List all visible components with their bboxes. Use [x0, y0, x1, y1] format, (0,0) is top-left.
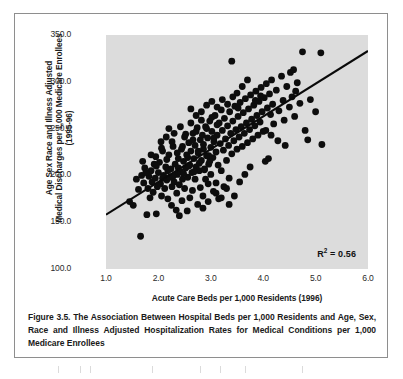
y-tick-label: 250.0 — [25, 123, 71, 133]
scan-artifact — [220, 366, 221, 373]
scatter-point — [220, 147, 227, 154]
scatter-point — [142, 169, 149, 176]
scatter-point — [179, 197, 186, 204]
scatter-point — [291, 113, 298, 120]
scatter-point — [173, 190, 180, 197]
scatter-point — [214, 104, 221, 111]
scatter-point — [262, 127, 269, 134]
scatter-point — [265, 155, 272, 162]
y-tick-label: 100.0 — [25, 263, 71, 273]
scatter-point — [229, 93, 236, 100]
scatter-point — [235, 105, 242, 112]
scatter-point — [281, 117, 288, 124]
scatter-point — [179, 143, 186, 150]
scan-artifact — [245, 366, 246, 373]
figure-caption: Figure 3.5. The Association Between Hosp… — [28, 311, 376, 350]
scan-artifact — [302, 366, 303, 373]
scatter-point — [282, 142, 289, 149]
y-tick-label: 150.0 — [25, 216, 71, 226]
scatter-point — [192, 176, 199, 183]
scatter-point — [158, 138, 165, 145]
r-squared-annotation: R2 = 0.56 — [317, 247, 356, 259]
scatter-point — [247, 164, 254, 171]
scatter-point — [273, 87, 280, 94]
scatter-point — [187, 148, 194, 155]
scatter-point — [213, 190, 220, 197]
scatter-point — [223, 185, 230, 192]
scan-artifact — [90, 366, 91, 373]
scatter-point — [177, 123, 184, 130]
scatter-point — [158, 145, 165, 152]
regression-trendline — [106, 51, 368, 215]
scatter-point — [161, 185, 168, 192]
scatter-point — [196, 160, 203, 167]
scatter-point — [158, 193, 165, 200]
scatter-point — [274, 137, 281, 144]
scatter-point — [176, 212, 183, 219]
scatter-point — [231, 193, 238, 200]
scatter-point — [153, 163, 160, 170]
scatter-point — [171, 130, 178, 137]
scatter-point — [203, 125, 210, 132]
plot-panel: R2 = 0.56 — [106, 35, 368, 269]
scatter-plot-svg — [106, 35, 368, 269]
scatter-point — [307, 96, 314, 103]
scatter-point — [187, 120, 194, 127]
scatter-point — [219, 127, 226, 134]
scatter-point — [278, 73, 285, 80]
scatter-point — [187, 106, 194, 113]
scatter-point — [219, 96, 226, 103]
y-tick-label: 200.0 — [25, 169, 71, 179]
scatter-point — [143, 211, 150, 218]
scatter-point — [201, 166, 208, 173]
scatter-point — [318, 141, 325, 148]
scatter-point — [189, 187, 196, 194]
scatter-point — [197, 184, 204, 191]
x-tick-label: 6.0 — [348, 273, 388, 283]
scatter-point — [226, 201, 233, 208]
scan-artifact — [152, 366, 153, 373]
y-tick-label: 300.0 — [25, 76, 71, 86]
scatter-point — [218, 167, 225, 174]
scatter-point — [181, 185, 188, 192]
scatter-point — [290, 66, 297, 73]
scatter-point — [317, 49, 324, 56]
scatter-point — [130, 202, 137, 209]
scatter-point — [252, 97, 259, 104]
figure-frame: Age Sex Race and Illness Adjusted Medica… — [14, 13, 388, 358]
scatter-point — [205, 180, 212, 187]
scatter-point — [198, 117, 205, 124]
scatter-point — [302, 127, 309, 134]
scatter-point — [299, 48, 306, 55]
scatter-point — [270, 121, 277, 128]
scatter-point — [312, 108, 319, 115]
x-tick-label: 3.0 — [191, 273, 231, 283]
scatter-point — [226, 175, 233, 182]
scatter-point — [224, 122, 231, 129]
data-points — [126, 48, 325, 239]
scatter-point — [296, 100, 303, 107]
scatter-point — [186, 194, 193, 201]
scatter-point — [198, 108, 205, 115]
scatter-point — [163, 134, 170, 141]
scatter-point — [184, 154, 191, 161]
x-tick-label: 1.0 — [86, 273, 126, 283]
scatter-point — [268, 77, 275, 84]
scatter-point — [221, 115, 228, 122]
scatter-point — [213, 179, 220, 186]
scatter-point — [241, 171, 248, 178]
scatter-point — [268, 132, 275, 139]
r-squared-prefix: R — [317, 249, 324, 259]
scatter-point — [174, 150, 181, 157]
scatter-point — [208, 114, 215, 121]
scatter-point — [236, 179, 243, 186]
scatter-point — [153, 210, 160, 217]
scatter-point — [239, 83, 246, 90]
scatter-point — [148, 151, 155, 158]
scatter-point — [257, 92, 264, 99]
scatter-point — [304, 136, 311, 143]
scatter-point — [169, 138, 176, 145]
x-tick-label: 5.0 — [296, 273, 336, 283]
scatter-point — [229, 118, 236, 125]
r-squared-value: = 0.56 — [328, 249, 356, 259]
